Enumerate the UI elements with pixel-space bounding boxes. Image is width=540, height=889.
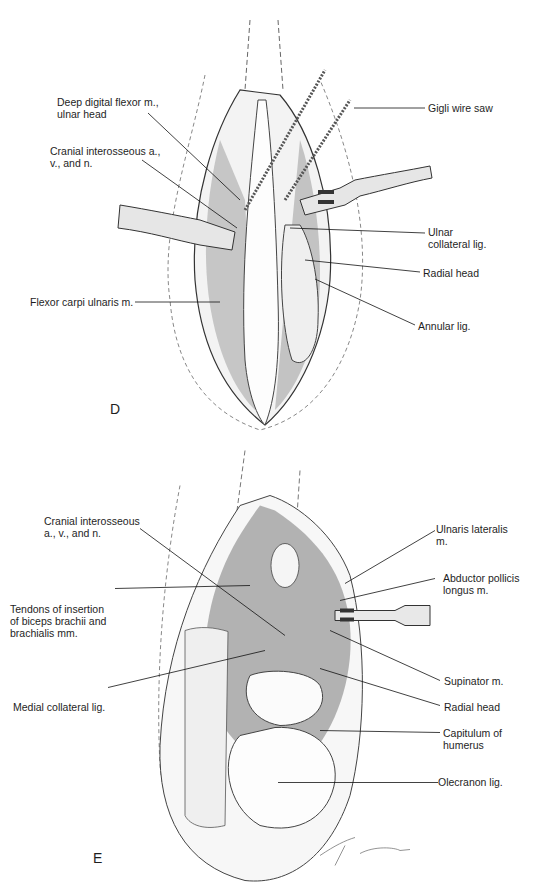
panel-e-illustration: Cranial interosseousa., v., and n. Tendo… [0,445,540,889]
label-medial-collateral-lig: Medial collateral lig. [13,701,105,713]
label-radial-head-e: Radial head [444,701,500,713]
label-tendons-of-insertion: Tendons of insertionof biceps brachii an… [10,603,106,639]
surgical-approach-drawing-e [0,445,540,889]
panel-d-illustration: Deep digital flexor m.,ulnar head Crania… [0,0,540,445]
label-capitulum-of-humerus: Capitulum ofhumerus [443,727,502,751]
label-abductor-pollicis-longus: Abductor pollicislongus m. [443,572,519,596]
label-radial-head: Radial head [423,267,479,279]
label-olecranon-lig: Olecranon lig. [438,776,503,788]
label-ulnaris-lateralis: Ulnaris lateralism. [436,523,508,547]
label-supinator: Supinator m. [444,675,504,687]
label-gigli-wire-saw: Gigli wire saw [428,102,493,114]
label-flexor-carpi-ulnaris: Flexor carpi ulnaris m. [30,296,133,308]
panel-letter-d: D [110,401,120,417]
label-annular-lig: Annular lig. [418,320,471,332]
label-deep-digital-flexor: Deep digital flexor m.,ulnar head [57,96,159,120]
surgical-approach-drawing-d [0,0,540,445]
label-cranial-interosseous: Cranial interosseous a.,v., and n. [50,145,160,169]
label-ulnar-collateral-lig: Ulnarcollateral lig. [428,226,486,250]
panel-letter-e: E [93,850,102,866]
label-cranial-interosseous-e: Cranial interosseousa., v., and n. [44,515,140,539]
